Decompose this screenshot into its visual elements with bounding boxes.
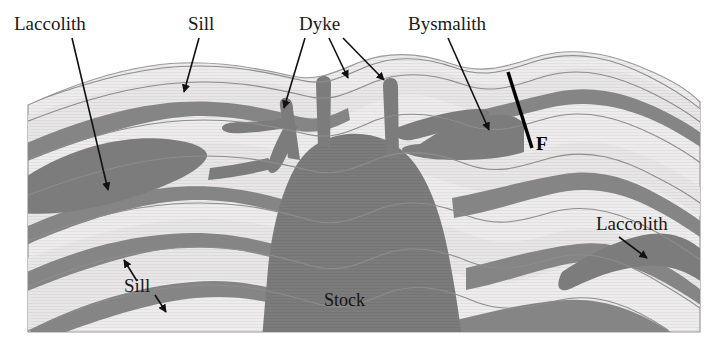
label-dyke-top: Dyke (299, 13, 340, 34)
label-laccolith-top-left: Laccolith (14, 13, 86, 34)
label-fault-f: F (536, 133, 548, 154)
label-stock: Stock (324, 290, 365, 310)
label-sill-top: Sill (188, 13, 214, 34)
label-bysmalith-top: Bysmalith (408, 13, 487, 34)
diagram-canvas: Laccolith Sill Dyke Bysmalith F Laccolit… (0, 0, 721, 339)
geological-cross-section-figure: Laccolith Sill Dyke Bysmalith F Laccolit… (0, 0, 721, 339)
label-laccolith-right: Laccolith (596, 213, 668, 234)
label-sill-lower-left: Sill (124, 275, 150, 296)
dyke-central (316, 76, 331, 148)
